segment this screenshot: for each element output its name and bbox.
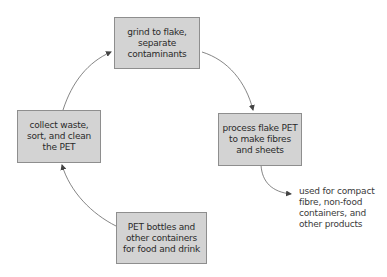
arrow-bottles-to-collect xyxy=(62,165,116,226)
node-collect-label: collect waste, sort, and clean the PET xyxy=(27,120,91,153)
node-bottles-label: PET bottles and other containers for foo… xyxy=(123,222,200,255)
arrow-process-to-note xyxy=(261,165,291,194)
output-note: used for compact fibre, non-food contain… xyxy=(299,186,387,230)
arrow-collect-to-grind xyxy=(63,52,111,110)
node-pet-bottles: PET bottles and other containers for foo… xyxy=(116,212,207,264)
arrow-grind-to-process xyxy=(202,52,253,110)
node-grind-to-flake: grind to flake, separate contaminants xyxy=(114,17,200,69)
node-grind-label: grind to flake, separate contaminants xyxy=(115,27,199,60)
node-process-label: process flake PET to make fibres and she… xyxy=(222,123,297,156)
node-collect-waste: collect waste, sort, and clean the PET xyxy=(17,110,101,163)
node-process-flake: process flake PET to make fibres and she… xyxy=(218,113,302,166)
